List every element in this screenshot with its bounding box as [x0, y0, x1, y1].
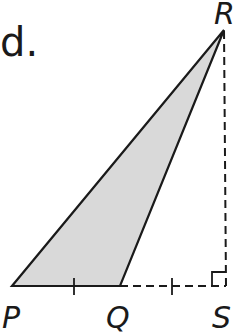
triangle-figure: R P Q S [0, 0, 238, 336]
vertex-label-q: Q [106, 300, 130, 335]
shaded-triangle-pqr [12, 30, 224, 286]
vertex-label-s: S [212, 300, 231, 335]
dashed-segment-sr [224, 30, 226, 286]
vertex-label-r: R [214, 0, 235, 31]
right-angle-marker [212, 272, 226, 286]
vertex-label-p: P [2, 300, 21, 335]
